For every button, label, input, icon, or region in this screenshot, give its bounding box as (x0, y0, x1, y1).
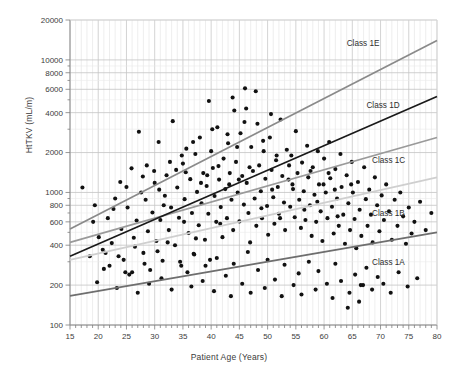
chart-figure: 1520253035404550556065707580100200400600… (0, 0, 458, 374)
x-tick-label: 35 (178, 332, 187, 341)
tick-layer (66, 20, 438, 330)
x-tick-label: 15 (66, 332, 75, 341)
x-tick-label: 80 (433, 332, 442, 341)
class-label-class-1c: Class 1C (372, 156, 405, 165)
x-tick-label: 65 (348, 332, 357, 341)
y-tick-label: 4000 (45, 109, 63, 118)
x-tick-label: 70 (376, 332, 385, 341)
x-tick-label: 25 (122, 332, 131, 341)
y-tick-label: 8000 (45, 69, 63, 78)
x-axis-title: Patient Age (Years) (0, 352, 458, 362)
y-tick-label: 6000 (45, 85, 63, 94)
y-tick-label: 600 (50, 218, 64, 227)
chart-plot-svg: 1520253035404550556065707580100200400600… (0, 0, 458, 374)
y-tick-label: 2000 (45, 148, 63, 157)
y-tick-label: 1000 (45, 188, 63, 197)
class-label-class-1b: Class 1B (372, 209, 405, 218)
y-tick-label: 100 (50, 321, 64, 330)
y-tick-label: 400 (50, 241, 64, 250)
y-tick-label: 200 (50, 281, 64, 290)
class-label-class-1e: Class 1E (347, 39, 380, 48)
x-tick-label: 20 (94, 332, 103, 341)
x-tick-label: 30 (150, 332, 159, 341)
tick-label-layer: 1520253035404550556065707580100200400600… (41, 16, 442, 341)
x-tick-label: 60 (320, 332, 329, 341)
x-tick-label: 50 (263, 332, 272, 341)
y-tick-label: 10000 (41, 56, 64, 65)
y-tick-label: 20000 (41, 16, 64, 25)
class-label-class-1a: Class 1A (372, 258, 405, 267)
class-label-class-1d: Class 1D (366, 101, 399, 110)
x-tick-label: 45 (235, 332, 244, 341)
y-axis-title: HtTKV (mL/m) (24, 60, 34, 190)
x-tick-label: 75 (404, 332, 413, 341)
x-tick-label: 55 (291, 332, 300, 341)
y-tick-label: 800 (50, 201, 64, 210)
x-tick-label: 40 (207, 332, 216, 341)
